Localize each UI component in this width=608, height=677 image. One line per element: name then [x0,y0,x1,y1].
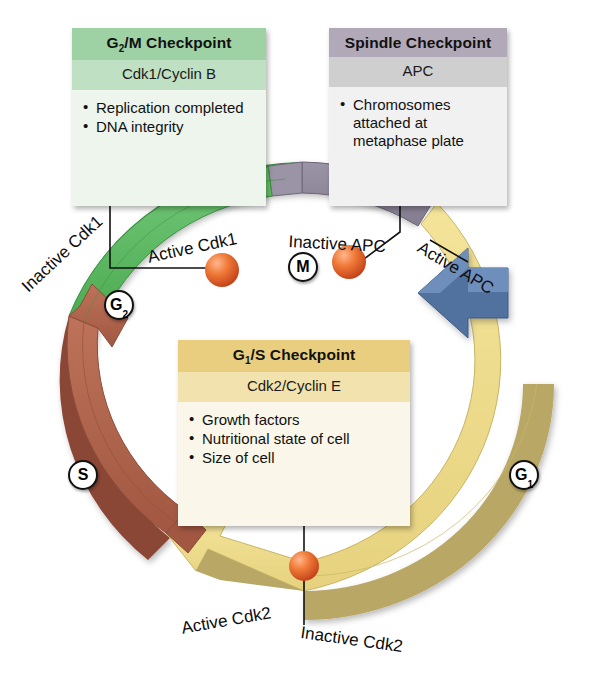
phase-badge-s: S [68,460,98,490]
phase-badge-g1: G1 [509,460,539,490]
phase-badge-m: M [288,252,318,282]
checkpoint-item: DNA integrity [83,118,258,136]
g1s-checkpoint-marker[interactable] [289,551,319,581]
g2m-checkpoint-marker[interactable] [205,253,239,287]
checkpoint-item: Nutritional state of cell [189,430,402,448]
checkpoint-subtitle-g1s: Cdk2/Cyclin E [178,372,410,402]
checkpoint-item: Chromosomes attached at metaphase plate [340,96,499,150]
checkpoint-header-g1s: G1/S Checkpoint [178,340,410,372]
checkpoint-header-spindle: Spindle Checkpoint [329,28,507,57]
checkpoint-body-g1s: Growth factors Nutritional state of cell… [178,402,410,478]
diagram-canvas: G2/M Checkpoint Cdk1/Cyclin B Replicatio… [0,0,608,677]
checkpoint-header-g2m: G2/M Checkpoint [72,28,266,60]
phase-badge-g2-label: G2 [110,296,128,314]
checkpoint-item: Size of cell [189,449,402,467]
checkpoint-subtitle-g2m: Cdk1/Cyclin B [72,60,266,90]
phase-badge-s-label: S [78,466,89,484]
checkpoint-box-g1s: G1/S Checkpoint Cdk2/Cyclin E Growth fac… [178,340,410,526]
phase-badge-g1-label: G1 [515,466,533,484]
checkpoint-subtitle-spindle: APC [329,57,507,87]
checkpoint-body-spindle: Chromosomes attached at metaphase plate [329,87,507,161]
phase-badge-g2: G2 [104,290,134,320]
checkpoint-body-g2m: Replication completed DNA integrity [72,90,266,147]
checkpoint-box-spindle: Spindle Checkpoint APC Chromosomes attac… [329,28,507,206]
checkpoint-box-g2m: G2/M Checkpoint Cdk1/Cyclin B Replicatio… [72,28,266,206]
phase-badge-m-label: M [296,258,309,276]
checkpoint-item: Growth factors [189,411,402,429]
checkpoint-item: Replication completed [83,99,258,117]
